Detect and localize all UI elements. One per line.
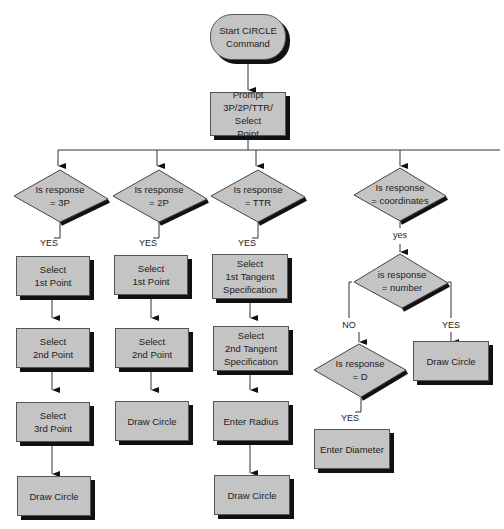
decision-2p: Is response = 2P	[119, 180, 199, 212]
label-yes-2p: YES	[133, 238, 163, 248]
label-no-number: NO	[334, 320, 364, 330]
decision-coordinates: Is response = coordinates	[358, 178, 442, 210]
step-ttr-draw-circle: Draw Circle	[214, 475, 290, 515]
step-2p-select-1st-point: Select 1st Point	[114, 255, 188, 295]
decision-3p: Is response = 3P	[20, 180, 100, 212]
decision-d: Is response = D	[320, 354, 400, 386]
step-3p-select-2nd-point: Select 2nd Point	[16, 328, 90, 368]
decision-ttr: Is response = TTR	[218, 180, 298, 212]
step-enter-diameter: Enter Diameter	[314, 429, 390, 469]
step-3p-select-3rd-point: Select 3rd Point	[16, 402, 90, 442]
label-yes-coordinates: yes	[385, 230, 415, 240]
step-2p-draw-circle: Draw Circle	[115, 401, 189, 441]
decision-number: is response = number	[360, 265, 444, 297]
step-ttr-1st-tangent: Select 1st Tangent Specification	[212, 254, 288, 299]
label-yes-3p: YES	[34, 238, 64, 248]
label-yes-ttr: YES	[232, 238, 262, 248]
label-yes-d: YES	[335, 413, 365, 423]
step-ttr-2nd-tangent: Select 2nd Tangent Specification	[213, 326, 289, 371]
step-2p-select-2nd-point: Select 2nd Point	[115, 328, 189, 368]
step-number-draw-circle: Draw Circle	[413, 341, 489, 381]
step-ttr-enter-radius: Enter Radius	[213, 401, 289, 441]
label-yes-number: YES	[436, 320, 466, 330]
step-3p-select-1st-point: Select 1st Point	[16, 256, 90, 296]
step-3p-draw-circle: Draw Circle	[17, 476, 91, 516]
